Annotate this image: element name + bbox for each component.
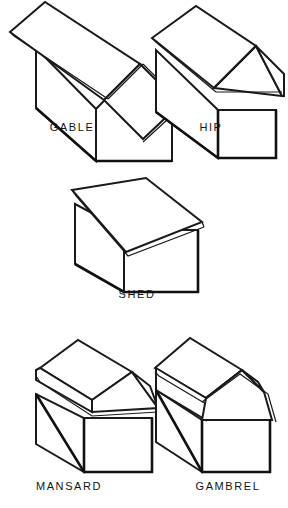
mansard-front-wall: [84, 418, 152, 472]
diagram-mansard: MANSARD: [36, 340, 158, 492]
roof-diagram-canvas: GABLE HIP: [0, 0, 288, 508]
hip-front-wall: [218, 110, 276, 158]
roof-types-figure: GABLE HIP: [0, 0, 288, 508]
label-gable: GABLE: [50, 121, 95, 133]
label-hip: HIP: [199, 121, 222, 133]
gambrel-end-wall: [202, 420, 270, 472]
label-gambrel: GAMBREL: [196, 480, 261, 492]
diagram-shed: SHED: [72, 178, 204, 300]
label-mansard: MANSARD: [36, 480, 102, 492]
diagram-gambrel: GAMBREL: [155, 338, 276, 492]
label-shed: SHED: [119, 288, 156, 300]
shed-eave-corner: [202, 222, 204, 227]
